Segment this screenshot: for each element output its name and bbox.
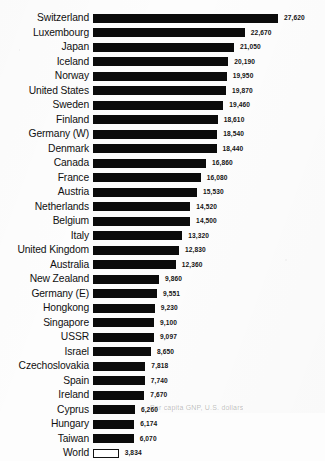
bar-track: 9,100 (89, 316, 325, 331)
bar-track: 18,440 (89, 142, 325, 157)
bar-value-label: 16,860 (212, 159, 233, 166)
bar-row: Ireland7,670 (0, 388, 325, 403)
bar-track: 8,650 (89, 345, 325, 360)
bar-value-label: 16,080 (207, 174, 228, 181)
bar-track: 9,230 (89, 301, 325, 316)
bar (93, 391, 144, 400)
category-label: Ireland (0, 390, 89, 400)
bar-track: 7,670 (89, 388, 325, 403)
bar (93, 405, 135, 414)
bar (93, 246, 179, 255)
bar-track: 19,950 (89, 69, 325, 84)
bar (93, 28, 245, 37)
bar-value-label: 14,500 (196, 217, 217, 224)
bar-value-label: 21,050 (240, 43, 261, 50)
bar-track: 18,610 (89, 113, 325, 128)
bar-row: Finland18,610 (0, 113, 325, 128)
bar-value-label: 9,860 (165, 275, 182, 282)
bar-value-label: 8,650 (157, 348, 174, 355)
bar (93, 130, 217, 139)
bar-row: Austria15,530 (0, 185, 325, 200)
bar-value-label: 18,540 (223, 130, 244, 137)
bar-value-label: 9,230 (161, 304, 178, 311)
bar-track: 19,460 (89, 98, 325, 113)
bar (93, 159, 206, 168)
category-label: New Zealand (0, 274, 89, 284)
bar-row: Luxembourg22,670 (0, 26, 325, 41)
bar-value-label: 19,870 (232, 87, 253, 94)
bar-track: 12,830 (89, 243, 325, 258)
category-label: Netherlands (0, 202, 89, 212)
bar-track: 15,530 (89, 185, 325, 200)
category-label: United Kingdom (0, 245, 89, 255)
category-label: World (0, 448, 89, 458)
bar-track: 14,520 (89, 200, 325, 215)
bar (93, 231, 182, 240)
bar-track: 19,870 (89, 84, 325, 99)
bar (93, 333, 154, 342)
bar (93, 72, 227, 81)
bar-value-label: 7,670 (150, 391, 167, 398)
category-label: Iceland (0, 57, 89, 67)
bar-row: Switzerland27,620 (0, 11, 325, 26)
bar-row-list: Switzerland27,620Luxembourg22,670Japan21… (0, 11, 325, 461)
bar (93, 289, 157, 298)
bar-track: 9,551 (89, 287, 325, 302)
category-label: Germany (E) (0, 289, 89, 299)
category-label: United States (0, 86, 89, 96)
category-label: Luxembourg (0, 28, 89, 38)
bar-track: 21,050 (89, 40, 325, 55)
bar-row: New Zealand9,860 (0, 272, 325, 287)
category-label: Finland (0, 115, 89, 125)
bar-value-label: 19,460 (229, 101, 250, 108)
bar-row: Hungary6,174 (0, 417, 325, 432)
bar-value-label: 3,834 (125, 449, 142, 456)
bar (93, 202, 190, 211)
bar-value-label: 18,610 (224, 116, 245, 123)
bar-track: 16,860 (89, 156, 325, 171)
bar (93, 260, 176, 269)
bar-value-label: 6,070 (140, 435, 157, 442)
bar-value-label: 15,530 (203, 188, 224, 195)
bar (93, 43, 234, 52)
bar-value-label: 20,190 (234, 58, 255, 65)
category-label: USSR (0, 332, 89, 342)
bar (93, 318, 154, 327)
bar (93, 449, 119, 458)
bar-row: Canada16,860 (0, 156, 325, 171)
bar-track: 9,860 (89, 272, 325, 287)
bar-row: Belgium14,500 (0, 214, 325, 229)
bar (93, 101, 223, 110)
bar-track: 9,097 (89, 330, 325, 345)
bar-value-label: 9,551 (163, 290, 180, 297)
bar-track: 12,360 (89, 258, 325, 273)
bar (93, 188, 197, 197)
category-label: Norway (0, 71, 89, 81)
category-label: France (0, 173, 89, 183)
category-label: Japan (0, 42, 89, 52)
bar-track: 6,174 (89, 417, 325, 432)
bar-row: United States19,870 (0, 84, 325, 99)
category-label: Singapore (0, 318, 89, 328)
bar-track: 7,740 (89, 374, 325, 389)
bar-value-label: 6,174 (140, 420, 157, 427)
bar-row: World3,834 (0, 446, 325, 461)
bar-value-label: 14,520 (196, 203, 217, 210)
bar-row: Iceland20,190 (0, 55, 325, 70)
bar-row: Germany (W)18,540 (0, 127, 325, 142)
bar-track: 27,620 (89, 11, 325, 26)
bar-value-label: 7,818 (151, 362, 168, 369)
bar-value-label: 12,360 (182, 261, 203, 268)
bar-track: 16,080 (89, 171, 325, 186)
bar-row: USSR9,097 (0, 330, 325, 345)
bar-track: 20,190 (89, 55, 325, 70)
bar-row: Norway19,950 (0, 69, 325, 84)
bar-row: Italy13,320 (0, 229, 325, 244)
bar-value-label: 22,670 (251, 29, 272, 36)
bar-value-label: 9,097 (160, 333, 177, 340)
bar-track: 13,320 (89, 229, 325, 244)
bar (93, 115, 218, 124)
bar-row: Germany (E)9,551 (0, 287, 325, 302)
bar (93, 173, 201, 182)
